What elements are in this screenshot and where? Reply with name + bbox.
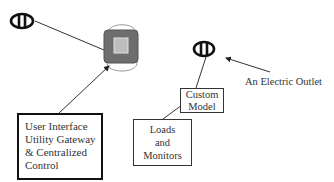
loads-monitors-line-2: and bbox=[134, 136, 191, 149]
connector-ui-to-device bbox=[58, 66, 109, 114]
custom-model-line-1: Custom bbox=[181, 89, 223, 101]
custom-model-line-2: Model bbox=[181, 101, 223, 113]
custom-model-box: Custom Model bbox=[180, 88, 224, 113]
ui-gateway-line-2: Utility Gateway bbox=[25, 133, 101, 146]
loads-monitors-line-3: Monitors bbox=[134, 149, 191, 162]
loads-monitors-box: Loads and Monitors bbox=[133, 119, 192, 166]
electric-outlet-label: An Electric Outlet bbox=[245, 76, 322, 87]
ui-gateway-line-1: User Interface bbox=[25, 120, 101, 133]
ui-gateway-line-3: & Centralized bbox=[25, 146, 101, 159]
loads-monitors-line-1: Loads bbox=[134, 123, 191, 136]
electric-outlet-icon bbox=[194, 42, 214, 56]
connector-label-to-outlet bbox=[226, 58, 270, 72]
connector-outlet-to-device bbox=[35, 21, 104, 50]
ui-gateway-box: User Interface Utility Gateway & Central… bbox=[17, 113, 103, 180]
gateway-device-icon bbox=[104, 25, 138, 71]
electric-outlet-icon bbox=[11, 14, 33, 28]
ui-gateway-line-4: Control bbox=[25, 159, 101, 172]
connector-outlet-to-custom-model bbox=[196, 57, 206, 88]
